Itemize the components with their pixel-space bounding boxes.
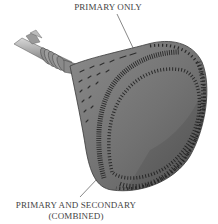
leader-line-primary-and-secondary <box>80 178 98 197</box>
cone-body <box>70 41 210 200</box>
leader-line-primary-only <box>117 14 135 52</box>
label-primary-only: PRIMARY ONLY <box>62 2 154 13</box>
cable <box>14 30 76 74</box>
diagram-figure: PRIMARY ONLY PRIMARY AND SECONDARY (COMB… <box>0 0 218 224</box>
label-primary-and-secondary-line1: PRIMARY AND SECONDARY <box>0 200 152 211</box>
cone-illustration <box>0 0 218 224</box>
label-primary-and-secondary: PRIMARY AND SECONDARY (COMBINED) <box>0 200 152 222</box>
label-primary-and-secondary-line2: (COMBINED) <box>0 211 152 222</box>
